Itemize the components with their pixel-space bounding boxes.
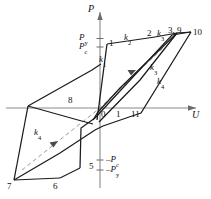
point-label-5: 5 [89,162,94,171]
y-axis-label: P [88,4,94,14]
py-negative-base: –P [106,164,116,174]
k4-left-sub: 4 [38,134,41,141]
k2-label: k2 [124,33,131,42]
k4-left-label: k4 [34,128,41,137]
pc-positive-sub: c [85,48,88,55]
hysteresis-figure: P U Py Pc –Pc –Py k1 k2 k3 k3 k4 k4 1 2 … [0,0,211,199]
point-label-2: 2 [147,29,152,38]
x-axis-label: U [192,110,199,120]
branch-8-arm [28,106,93,124]
k1-sub: 1 [103,61,106,68]
branch-8-upper-connector [28,64,101,106]
k2-sub: 2 [128,39,131,46]
k1-label: k1 [99,55,106,64]
point-label-8: 8 [68,96,73,105]
pc-positive-base: P [79,41,85,51]
py-negative-label: –Py [106,165,119,174]
k3-top-label: k3 [157,29,164,38]
branch-10-to-11-unload [132,32,191,116]
branch-7-to-6-bottom [14,178,60,180]
k4-right-sub: 4 [161,83,164,90]
point-label-3-9: 3, 9 [168,26,182,35]
k3-top-sub: 3 [161,35,164,42]
pc-positive-label: Pc [79,42,87,51]
point-label-10: 10 [193,28,202,37]
k3-right-sub: 3 [154,69,157,76]
branch-6-to-5 [60,168,80,178]
y-axis-arrowhead [97,12,102,20]
point-label-11: 11 [131,110,140,119]
py-negative-sub: y [116,171,119,178]
pc-negative-base: –P [106,154,116,164]
point-label-6: 6 [53,182,58,191]
origin-label-0: 0 [101,110,106,119]
k4-right-label: k4 [157,77,164,86]
point-label-1b: 1 [116,110,121,119]
point-label-7: 7 [7,182,12,191]
branch-8-to-7-k4 [14,106,28,180]
pc-negative-label: –Pc [106,155,119,164]
k3-right-label: k3 [150,63,157,72]
point-label-1: 1 [109,39,114,48]
